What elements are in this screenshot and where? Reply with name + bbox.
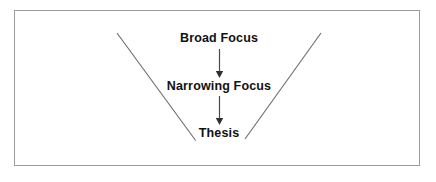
arrow-broad-to-narrowing-icon [216, 49, 223, 78]
figure-root: Broad Focus Narrowing Focus Thesis [0, 0, 436, 182]
stage-label-broad-focus: Broad Focus [177, 32, 261, 46]
funnel-diagram: Broad Focus Narrowing Focus Thesis [0, 0, 436, 182]
stage-label-narrowing-focus: Narrowing Focus [164, 80, 274, 94]
arrow-narrowing-to-thesis-icon [216, 96, 223, 125]
stage-label-thesis: Thesis [196, 127, 243, 141]
